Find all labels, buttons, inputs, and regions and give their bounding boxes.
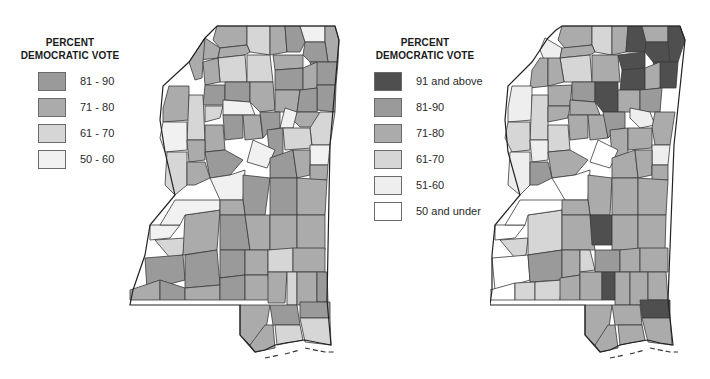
legend-label: 81 - 90 bbox=[80, 75, 114, 87]
legend-item: 51-60 bbox=[374, 172, 490, 198]
legend-swatch bbox=[374, 202, 402, 221]
county-polygons bbox=[150, 82, 335, 258]
legend-title-line2: DEMOCRATIC VOTE bbox=[360, 49, 490, 62]
legend-label: 71-80 bbox=[416, 127, 444, 139]
legend-item: 71-80 bbox=[374, 120, 490, 146]
coastline-islands bbox=[610, 348, 678, 358]
legend-swatch bbox=[374, 150, 402, 169]
legend-swatch bbox=[374, 124, 402, 143]
legend-swatch bbox=[374, 72, 402, 91]
legend-label: 81-90 bbox=[416, 101, 444, 113]
county-map-left bbox=[125, 0, 350, 379]
legend-label: 71 - 80 bbox=[80, 101, 114, 113]
legend-right: PERCENT DEMOCRATIC VOTE 91 and above 81-… bbox=[360, 36, 490, 224]
legend-item: 61 - 70 bbox=[38, 120, 130, 146]
legend-item: 91 and above bbox=[374, 68, 490, 94]
legend-swatch bbox=[38, 124, 66, 143]
coastline-islands bbox=[265, 348, 335, 358]
legend-label: 51-60 bbox=[416, 179, 444, 191]
legend-swatch bbox=[38, 72, 66, 91]
legend-left: PERCENT DEMOCRATIC VOTE 81 - 90 71 - 80 … bbox=[10, 36, 130, 172]
legend-item: 50 - 60 bbox=[38, 146, 130, 172]
map-panel-right: PERCENT DEMOCRATIC VOTE 91 and above 81-… bbox=[350, 0, 710, 379]
legend-swatch bbox=[374, 176, 402, 195]
legend-label: 61-70 bbox=[416, 153, 444, 165]
map-panel-left: PERCENT DEMOCRATIC VOTE 81 - 90 71 - 80 … bbox=[0, 0, 350, 379]
legend-swatch bbox=[374, 98, 402, 117]
county-map-right bbox=[490, 0, 710, 379]
legend-item: 71 - 80 bbox=[38, 94, 130, 120]
legend-item: 81-90 bbox=[374, 94, 490, 120]
legend-swatch bbox=[38, 150, 66, 169]
legend-item: 61-70 bbox=[374, 146, 490, 172]
legend-title-line2: DEMOCRATIC VOTE bbox=[10, 49, 130, 62]
legend-item: 50 and under bbox=[374, 198, 490, 224]
legend-label: 91 and above bbox=[416, 75, 483, 87]
legend-title: PERCENT DEMOCRATIC VOTE bbox=[360, 36, 490, 62]
legend-label: 50 - 60 bbox=[80, 153, 114, 165]
legend-title: PERCENT DEMOCRATIC VOTE bbox=[10, 36, 130, 62]
legend-title-line1: PERCENT bbox=[360, 36, 490, 49]
legend-title-line1: PERCENT bbox=[10, 36, 130, 49]
county-polygons bbox=[130, 248, 331, 352]
legend-swatch bbox=[38, 98, 66, 117]
legend-item: 81 - 90 bbox=[38, 68, 130, 94]
legend-label: 50 and under bbox=[416, 205, 481, 217]
legend-label: 61 - 70 bbox=[80, 127, 114, 139]
